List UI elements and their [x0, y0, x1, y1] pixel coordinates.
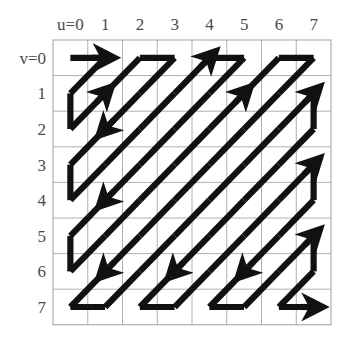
v-axis-tick-label-2: 2	[38, 121, 47, 138]
zigzag-arrowhead	[105, 262, 114, 271]
zigzag-arrowhead	[235, 93, 244, 102]
v-axis-tick-label-0: v=0	[19, 49, 46, 66]
v-axis-tick-label-3: 3	[38, 156, 47, 173]
v-axis-tick-label-7: 7	[38, 299, 47, 316]
u-axis-tick-label-5: 5	[240, 16, 249, 33]
u-axis-tick-label-2: 2	[136, 16, 145, 33]
v-axis-tick-label-6: 6	[38, 263, 47, 280]
zigzag-arrowhead	[244, 262, 253, 271]
u-axis-tick-label-1: 1	[101, 16, 110, 33]
v-axis-tick-label-1: 1	[38, 85, 47, 102]
zigzag-arrowhead	[105, 120, 114, 129]
zigzag-arrowhead	[105, 191, 114, 200]
zigzag-scan-figure: u=01234567 v=01234567	[0, 0, 341, 341]
u-axis-tick-label-0: u=0	[57, 16, 84, 33]
zigzag-arrowhead	[200, 58, 209, 67]
u-axis-tick-label-3: 3	[170, 16, 179, 33]
u-axis-tick-label-4: 4	[205, 16, 214, 33]
zigzag-arrowhead	[96, 93, 105, 102]
u-axis-tick-label-6: 6	[275, 16, 284, 33]
zigzag-plot-svg	[0, 0, 341, 341]
zigzag-arrowhead	[175, 262, 184, 271]
v-axis-tick-label-5: 5	[38, 227, 47, 244]
u-axis-tick-label-7: 7	[309, 16, 318, 33]
v-axis-tick-label-4: 4	[38, 192, 47, 209]
